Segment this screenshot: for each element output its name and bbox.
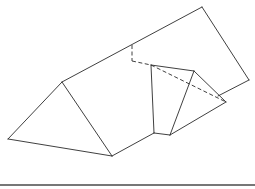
solid-edges-group xyxy=(8,7,249,156)
long-top-edge-line xyxy=(62,7,202,82)
rectangle-bottom-right-line xyxy=(218,80,249,96)
left-triangle-bottom-line xyxy=(8,139,112,156)
notch-bottom-line xyxy=(154,133,170,135)
dashed-edges-group xyxy=(132,45,226,102)
quad-left-side-line xyxy=(151,65,154,133)
hidden-horizontal-line xyxy=(132,61,151,65)
base-lower-edge-line xyxy=(112,133,154,156)
rectangle-right-side-line xyxy=(202,7,249,80)
geometric-net-diagram xyxy=(0,0,255,189)
left-triangle-right-side-line xyxy=(62,82,112,156)
kite-lower-right-line xyxy=(170,102,226,135)
kite-upper-right-line xyxy=(194,71,226,102)
left-triangle-left-side-line xyxy=(8,82,62,139)
